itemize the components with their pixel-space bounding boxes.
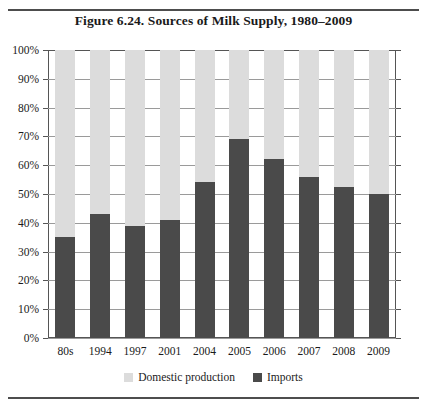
legend-label: Domestic production <box>138 371 235 383</box>
y-axis-tick-right <box>396 280 401 281</box>
x-axis-tick-label: 2001 <box>158 345 181 357</box>
bar-segment-domestic-production <box>299 50 319 177</box>
y-axis-tick-right <box>396 108 401 109</box>
y-axis-tick-right <box>396 165 401 166</box>
y-axis-tick-right <box>396 338 401 339</box>
plot-area: 100%90%80%70%60%50%40%30%20%10%0% 80s199… <box>48 50 396 338</box>
bar-segment-domestic-production <box>55 50 75 237</box>
bar-segment-imports <box>160 220 180 338</box>
y-axis-tick-label: 20% <box>18 274 39 286</box>
y-axis-tick-label: 10% <box>18 303 39 315</box>
legend-swatch-domestic-icon <box>124 373 133 382</box>
bar-column: 2005 <box>229 50 249 338</box>
y-axis-tick-label: 40% <box>18 217 39 229</box>
bar-segment-domestic-production <box>334 50 354 187</box>
bar-segment-domestic-production <box>125 50 145 226</box>
bar-segment-domestic-production <box>90 50 110 214</box>
y-axis-tick-right <box>396 194 401 195</box>
x-axis-tick-label: 2004 <box>193 345 216 357</box>
bar-segment-domestic-production <box>229 50 249 139</box>
y-axis-tick-label: 60% <box>18 159 39 171</box>
bar-column: 2006 <box>264 50 284 338</box>
y-axis-tick-label: 70% <box>18 130 39 142</box>
x-axis-tick-label: 2009 <box>367 345 390 357</box>
bar-column: 2009 <box>369 50 389 338</box>
bar-segment-imports <box>299 177 319 338</box>
y-axis-tick-label: 100% <box>12 44 39 56</box>
bar-segment-imports <box>90 214 110 338</box>
y-axis-tick-right <box>396 50 401 51</box>
bar-column: 2007 <box>299 50 319 338</box>
bar-segment-imports <box>264 159 284 338</box>
bar-segment-domestic-production <box>160 50 180 220</box>
bar-segment-domestic-production <box>264 50 284 159</box>
x-axis-tick-label: 2006 <box>263 345 286 357</box>
legend-swatch-imports-icon <box>253 373 262 382</box>
y-axis-tick-label: 90% <box>18 73 39 85</box>
chart-legend: Domestic productionImports <box>0 371 427 383</box>
x-axis-tick-label: 1994 <box>89 345 112 357</box>
x-axis-tick-label: 80s <box>57 345 73 357</box>
bar-column: 1997 <box>125 50 145 338</box>
bars-group: 80s199419972001200420052006200720082009 <box>48 50 396 338</box>
legend-item: Imports <box>253 371 303 383</box>
y-axis-tick-right <box>396 223 401 224</box>
y-axis-tick-left <box>43 338 48 339</box>
bar-column: 2001 <box>160 50 180 338</box>
y-axis-tick-right <box>396 136 401 137</box>
bar-segment-imports <box>229 139 249 338</box>
y-axis-tick-right <box>396 252 401 253</box>
bar-segment-imports <box>334 187 354 338</box>
x-axis-tick-label: 1997 <box>123 345 146 357</box>
x-axis-tick-label: 2005 <box>228 345 251 357</box>
bar-column: 2004 <box>195 50 215 338</box>
x-axis-tick-label: 2008 <box>332 345 355 357</box>
legend-label: Imports <box>267 371 303 383</box>
gridline <box>48 338 396 339</box>
figure-top-rule <box>8 9 419 11</box>
y-axis-tick-label: 80% <box>18 102 39 114</box>
bar-column: 1994 <box>90 50 110 338</box>
bar-segment-domestic-production <box>369 50 389 194</box>
figure-bottom-rule <box>8 397 419 399</box>
bar-segment-imports <box>195 182 215 338</box>
legend-item: Domestic production <box>124 371 235 383</box>
bar-segment-imports <box>369 194 389 338</box>
bar-segment-imports <box>55 237 75 338</box>
bar-segment-imports <box>125 226 145 338</box>
y-axis-tick-label: 50% <box>18 188 39 200</box>
y-axis-tick-label: 30% <box>18 246 39 258</box>
figure-container: Figure 6.24. Sources of Milk Supply, 198… <box>0 0 427 409</box>
figure-title: Figure 6.24. Sources of Milk Supply, 198… <box>0 13 427 29</box>
bar-column: 80s <box>55 50 75 338</box>
y-axis-tick-right <box>396 309 401 310</box>
bar-column: 2008 <box>334 50 354 338</box>
bar-segment-domestic-production <box>195 50 215 182</box>
x-axis-tick-label: 2007 <box>297 345 320 357</box>
y-axis-tick-right <box>396 79 401 80</box>
y-axis-tick-label: 0% <box>24 332 39 344</box>
